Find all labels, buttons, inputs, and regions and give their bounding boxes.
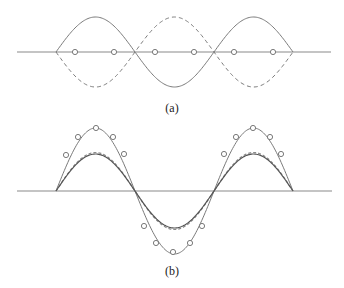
panel-b: (b)	[17, 125, 332, 278]
node-marker	[250, 125, 255, 130]
panel-b-markers	[63, 125, 283, 254]
node-marker	[141, 223, 146, 228]
panel-a-label: (a)	[165, 101, 178, 115]
node-marker	[93, 125, 98, 130]
node-marker	[111, 49, 116, 54]
node-marker	[121, 151, 126, 156]
node-marker	[231, 49, 236, 54]
node-marker	[278, 151, 283, 156]
panel-a: (a)	[17, 17, 331, 115]
panel-b-label: (b)	[165, 264, 179, 278]
node-marker	[199, 223, 204, 228]
node-marker	[110, 134, 115, 139]
node-marker	[191, 49, 196, 54]
node-marker	[75, 134, 80, 139]
node-marker	[221, 151, 226, 156]
node-marker	[152, 49, 157, 54]
standing-wave-diagram: (a) (b)	[0, 0, 344, 288]
node-marker	[233, 134, 238, 139]
node-marker	[270, 49, 275, 54]
node-marker	[267, 134, 272, 139]
node-marker	[170, 249, 175, 254]
node-marker	[153, 240, 158, 245]
node-marker	[63, 152, 68, 157]
node-marker	[72, 49, 77, 54]
node-marker	[187, 240, 192, 245]
